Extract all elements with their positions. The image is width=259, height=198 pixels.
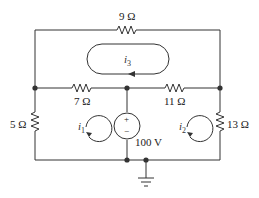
- mesh-loop-i2: [187, 116, 213, 142]
- mesh-current-i2: i2: [179, 121, 186, 135]
- mesh-current-i3: i3: [124, 54, 131, 68]
- resistor-label-9: 9 Ω: [119, 11, 135, 22]
- node: [217, 85, 222, 90]
- source-plus: +: [124, 115, 129, 124]
- node: [124, 85, 129, 90]
- mesh-loop-i1: [86, 116, 112, 142]
- resistor-label-11: 11 Ω: [164, 96, 186, 107]
- mesh-current-i1: i1: [78, 121, 85, 135]
- node: [124, 157, 129, 162]
- resistor-label-13: 13 Ω: [227, 119, 249, 130]
- circuit-schematic: [0, 0, 259, 198]
- resistor-label-7: 7 Ω: [74, 96, 90, 107]
- ground-icon: [138, 160, 154, 186]
- source-minus: −: [124, 127, 129, 136]
- node: [143, 157, 148, 162]
- arrow-i2: [187, 132, 193, 137]
- wire-left: [31, 88, 220, 160]
- arrow-i3: [128, 71, 135, 77]
- wire-right: [216, 88, 224, 160]
- source-label: 100 V: [135, 137, 162, 148]
- node: [32, 85, 37, 90]
- arrow-i1: [86, 132, 92, 137]
- resistor-label-5: 5 Ω: [10, 119, 26, 130]
